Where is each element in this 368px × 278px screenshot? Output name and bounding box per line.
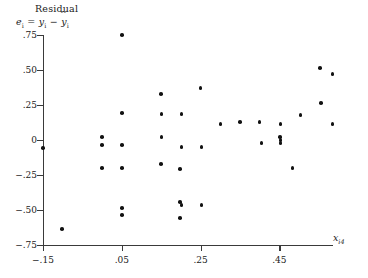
y-tick-mark (37, 70, 43, 71)
scatter-point (160, 112, 164, 116)
scatter-point (299, 113, 303, 117)
scatter-point (178, 200, 182, 204)
y-axis-title: Residual ei = yi − ^yi (16, 2, 126, 30)
formula-yhat-sub: i (67, 22, 69, 30)
scatter-point (180, 203, 184, 207)
scatter-point (319, 101, 323, 105)
formula-yhat: ^y (61, 15, 67, 28)
scatter-point (100, 166, 104, 170)
y-tick-mark (37, 35, 43, 36)
scatter-point (331, 72, 335, 76)
y-tick-label: 0 (3, 136, 37, 145)
scatter-point (279, 138, 283, 142)
formula-e-sub: i (22, 22, 24, 30)
plot-area (0, 0, 368, 278)
scatter-point (238, 120, 242, 124)
x-axis-line (43, 245, 333, 246)
y-tick-mark (37, 210, 43, 211)
scatter-point (200, 203, 204, 207)
formula-y-sub: i (44, 22, 46, 30)
scatter-point (178, 216, 182, 220)
scatter-point (318, 66, 322, 70)
x-tick-mark (43, 245, 44, 251)
formula-yhat-y: y (61, 16, 67, 27)
y-tick-label: −.75 (3, 241, 37, 250)
y-tick-label: .50 (3, 66, 37, 75)
x-tick-label: .25 (181, 256, 221, 265)
y-tick-label: −.25 (3, 171, 37, 180)
scatter-point (120, 213, 124, 217)
scatter-point (100, 143, 104, 147)
formula-e: e (16, 16, 22, 27)
x-tick-mark (122, 245, 123, 251)
scatter-point (260, 141, 264, 145)
y-axis-line (43, 35, 44, 246)
scatter-point (200, 145, 204, 149)
scatter-point (331, 122, 335, 126)
x-tick-label: .05 (102, 256, 142, 265)
scatter-point (160, 135, 164, 139)
x-tick-label: .45 (259, 256, 299, 265)
y-tick-label: .25 (3, 101, 37, 110)
x-tick-mark (201, 245, 202, 251)
scatter-point (120, 166, 124, 170)
scatter-point (159, 92, 163, 96)
circumflex-icon: ^ (60, 10, 67, 18)
scatter-point (258, 120, 262, 124)
y-tick-mark (37, 105, 43, 106)
y-tick-mark (37, 140, 43, 141)
scatter-point (199, 86, 203, 90)
scatter-point (279, 141, 283, 145)
y-tick-label: −.50 (3, 206, 37, 215)
x-axis-title: xi4 (333, 232, 345, 243)
residual-scatter-figure: Residual ei = yi − ^yi xi4 .75.50.250−.2… (0, 0, 368, 278)
scatter-point (178, 167, 182, 171)
scatter-point (219, 122, 223, 126)
scatter-point (120, 143, 124, 147)
formula-minus: − (50, 16, 58, 27)
scatter-point (60, 227, 64, 231)
scatter-point (180, 145, 184, 149)
x-tick-mark (279, 245, 280, 251)
y-axis-title-formula: ei = yi − ^yi (16, 15, 126, 30)
x-axis-title-sub: i4 (338, 238, 344, 246)
scatter-point (120, 33, 124, 37)
scatter-point (120, 206, 124, 210)
scatter-point (100, 135, 104, 139)
y-tick-mark (37, 175, 43, 176)
scatter-point (278, 135, 282, 139)
x-tick-label: −.15 (23, 256, 63, 265)
y-axis-title-text: Residual (16, 2, 126, 15)
scatter-point (180, 112, 184, 116)
scatter-point (159, 162, 163, 166)
scatter-point (120, 111, 124, 115)
formula-equals: = (27, 16, 35, 27)
y-tick-label: .75 (3, 31, 37, 40)
scatter-point (291, 166, 295, 170)
scatter-point (279, 122, 283, 126)
